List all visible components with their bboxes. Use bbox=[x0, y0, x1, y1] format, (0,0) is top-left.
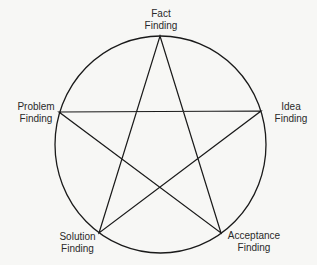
node-label-line2: Finding bbox=[223, 242, 285, 254]
node-label-line2: Finding bbox=[136, 20, 186, 32]
node-acceptance-finding: Acceptance Finding bbox=[223, 230, 285, 254]
pentagram-star bbox=[59, 36, 261, 233]
node-label-line1: Fact bbox=[136, 8, 186, 20]
node-label-line1: Solution bbox=[55, 231, 100, 243]
node-fact-finding: Fact Finding bbox=[136, 8, 186, 32]
node-label-line1: Idea bbox=[266, 101, 316, 113]
node-label-line2: Finding bbox=[266, 113, 316, 125]
pentagram-diagram bbox=[0, 0, 317, 265]
outer-circle bbox=[55, 36, 266, 253]
node-idea-finding: Idea Finding bbox=[266, 101, 316, 125]
node-label-line1: Acceptance bbox=[223, 230, 285, 242]
node-problem-finding: Problem Finding bbox=[12, 101, 60, 125]
node-label-line2: Finding bbox=[12, 113, 60, 125]
node-solution-finding: Solution Finding bbox=[55, 231, 100, 255]
node-label-line2: Finding bbox=[55, 243, 100, 255]
node-label-line1: Problem bbox=[12, 101, 60, 113]
